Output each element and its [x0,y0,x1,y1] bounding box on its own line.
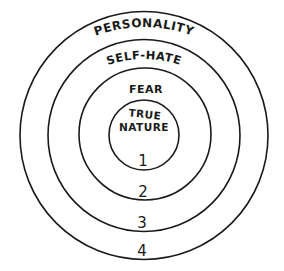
number-4: 4 [137,242,147,260]
label-self-hate: SELF-HATE [105,48,184,68]
label-fear: FEAR [129,83,163,96]
number-1: 1 [138,152,148,170]
label-true-nature-line1: TRUE [128,106,162,121]
number-3: 3 [137,214,147,232]
label-true-nature-line2: NATURE [119,121,169,133]
number-2: 2 [138,183,148,201]
label-personality: PERSONALITY [92,16,196,39]
concentric-layers-diagram: PERSONALITY SELF-HATE FEAR TRUE NATURE 1… [0,0,284,271]
